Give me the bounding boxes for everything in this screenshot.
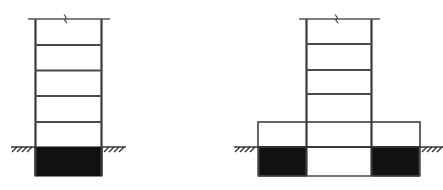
right-structure xyxy=(234,15,443,177)
left-basement-block xyxy=(35,147,102,176)
right-basement-bay-left xyxy=(258,147,306,176)
left-ground-hatch-east xyxy=(104,147,124,152)
left-structure xyxy=(11,15,126,177)
right-basement-bay-right xyxy=(372,147,420,176)
right-podium-outline xyxy=(258,122,420,147)
left-ground-hatch-west xyxy=(12,147,32,152)
right-ground-hatch-east xyxy=(422,147,442,152)
right-ground-hatch-west xyxy=(235,147,255,152)
structural-diagram-root xyxy=(0,0,443,190)
right-basement-bay-center xyxy=(306,147,372,176)
diagram-canvas xyxy=(0,0,443,190)
